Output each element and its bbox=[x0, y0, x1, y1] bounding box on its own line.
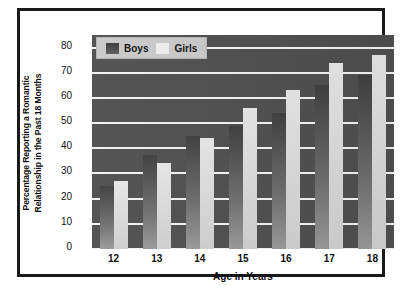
bar-group bbox=[100, 35, 128, 249]
bar-boys-13 bbox=[143, 155, 157, 249]
bar-girls-18 bbox=[372, 55, 386, 249]
bar-group bbox=[358, 35, 386, 249]
bar-girls-12 bbox=[114, 181, 128, 249]
y-axis-label-line2: Relationship in the Past 18 Months bbox=[32, 73, 44, 212]
x-axis-ticks: 12131415161718 bbox=[92, 253, 394, 269]
x-tick-label-16: 16 bbox=[267, 253, 305, 269]
y-axis-label: Percentage Reporting a Romantic Relation… bbox=[21, 73, 44, 212]
bar-group bbox=[229, 35, 257, 249]
y-axis-label-line1: Percentage Reporting a Romantic bbox=[21, 75, 31, 210]
x-tick-label-12: 12 bbox=[95, 253, 133, 269]
y-axis-label-wrapper: Percentage Reporting a Romantic Relation… bbox=[15, 8, 49, 277]
bar-boys-17 bbox=[315, 85, 329, 249]
bar-boys-18 bbox=[358, 75, 372, 249]
bar-girls-14 bbox=[200, 138, 214, 249]
plot-area: Boys Girls bbox=[92, 35, 394, 249]
x-tick-label-17: 17 bbox=[310, 253, 348, 269]
bar-group bbox=[186, 35, 214, 249]
legend-item-girls: Girls bbox=[156, 43, 197, 54]
x-tick-label-13: 13 bbox=[138, 253, 176, 269]
bar-girls-15 bbox=[243, 108, 257, 249]
x-tick-label-18: 18 bbox=[353, 253, 391, 269]
bar-boys-14 bbox=[186, 136, 200, 249]
bar-boys-12 bbox=[100, 186, 114, 249]
legend-label-girls: Girls bbox=[174, 43, 197, 54]
chart-legend: Boys Girls bbox=[96, 37, 207, 59]
legend-label-boys: Boys bbox=[124, 43, 148, 54]
bar-group bbox=[315, 35, 343, 249]
legend-item-boys: Boys bbox=[106, 43, 148, 54]
bar-group bbox=[143, 35, 171, 249]
bar-boys-16 bbox=[272, 113, 286, 249]
x-tick-label-14: 14 bbox=[181, 253, 219, 269]
bar-girls-13 bbox=[157, 163, 171, 249]
legend-swatch-girls bbox=[156, 43, 169, 54]
bar-groups bbox=[92, 35, 394, 249]
x-axis-label: Age in Years bbox=[92, 271, 394, 282]
bar-girls-17 bbox=[329, 63, 343, 249]
bar-boys-15 bbox=[229, 126, 243, 249]
chart-frame: Boys Girls 12131415161718 Age in Years bbox=[17, 8, 385, 277]
x-tick-label-15: 15 bbox=[224, 253, 262, 269]
legend-swatch-boys bbox=[106, 43, 119, 54]
bar-girls-16 bbox=[286, 90, 300, 249]
bar-group bbox=[272, 35, 300, 249]
